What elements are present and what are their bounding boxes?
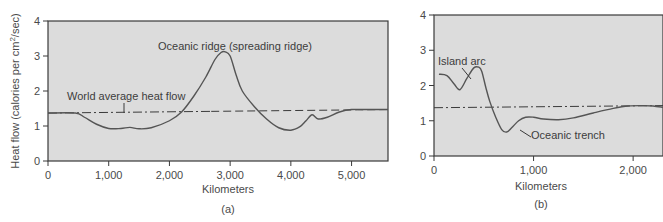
- y-tick-label: 2: [420, 80, 426, 92]
- x-tick-label: 0: [431, 164, 437, 176]
- panel-label: (a): [221, 203, 234, 215]
- panel-label: (b): [534, 198, 547, 210]
- annotation: Island arc: [438, 55, 486, 67]
- y-tick-label: 2: [34, 85, 40, 97]
- chart-panel-b: 0123401,0002,000Kilometers(b)Island arcO…: [420, 9, 663, 210]
- x-tick-label: 4,000: [277, 169, 305, 181]
- y-tick-label: 0: [34, 155, 40, 167]
- x-tick-label: 0: [45, 169, 51, 181]
- y-tick-label: 4: [420, 9, 426, 21]
- y-tick-label: 3: [420, 44, 426, 56]
- x-tick-label: 5,000: [338, 169, 366, 181]
- x-tick-label: 3,000: [216, 169, 244, 181]
- y-tick-label: 0: [420, 150, 426, 162]
- x-axis-label: Kilometers: [515, 180, 567, 192]
- chart-panel-a: 0123401,0002,0003,0004,0005,000Kilometer…: [8, 13, 388, 215]
- y-tick-label: 3: [34, 50, 40, 62]
- y-tick-label: 4: [34, 15, 40, 27]
- figure: 0123401,0002,0003,0004,0005,000Kilometer…: [0, 0, 663, 222]
- x-axis-label: Kilometers: [202, 183, 254, 195]
- x-tick-label: 2,000: [619, 164, 647, 176]
- y-tick-label: 1: [420, 115, 426, 127]
- annotation: Oceanic ridge (spreading ridge): [158, 40, 312, 52]
- x-tick-label: 1,000: [95, 169, 123, 181]
- x-tick-label: 2,000: [156, 169, 184, 181]
- x-tick-label: 1,000: [520, 164, 548, 176]
- annotation: World average heat flow: [67, 90, 185, 102]
- y-tick-label: 1: [34, 120, 40, 132]
- annotation: Oceanic trench: [531, 129, 605, 141]
- y-axis-label: Heat flow (calories per cm2/sec): [8, 13, 21, 168]
